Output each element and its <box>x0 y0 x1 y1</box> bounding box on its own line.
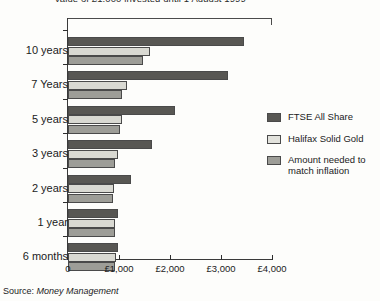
x-axis-tick <box>272 255 273 260</box>
plot-area <box>68 18 272 260</box>
source-prefix: Source: <box>3 286 34 296</box>
bar-group <box>68 37 272 65</box>
legend-item[interactable]: Halifax Solid Gold <box>267 134 380 145</box>
category-label: 2 years <box>0 182 68 194</box>
bar-2 <box>68 228 115 237</box>
bar-group <box>68 175 272 203</box>
category-label: 10 years <box>0 44 68 56</box>
y-axis-tick <box>63 236 68 237</box>
legend-label: FTSE All Share <box>288 112 353 123</box>
source-name: Money Management <box>37 286 119 296</box>
bar-0 <box>68 140 152 149</box>
legend-item[interactable]: FTSE All Share <box>267 112 380 123</box>
bar-1 <box>68 253 116 262</box>
category-label: 3 years <box>0 147 68 159</box>
y-axis-tick <box>63 30 68 31</box>
bar-1 <box>68 81 127 90</box>
legend-swatch-icon <box>267 135 281 144</box>
bar-0 <box>68 37 244 46</box>
category-label: 5 years <box>0 113 68 125</box>
legend-label: Halifax Solid Gold <box>288 134 364 145</box>
bar-0 <box>68 243 118 252</box>
chart-title: Value of £1,000 invested until 1 August … <box>0 0 300 2</box>
chart-legend: FTSE All ShareHalifax Solid GoldAmount n… <box>267 112 380 187</box>
bar-chart-figure: Value of £1,000 invested until 1 August … <box>0 0 380 301</box>
x-axis-tick <box>170 255 171 260</box>
category-label: 7 Years <box>0 78 68 90</box>
bar-1 <box>68 115 122 124</box>
x-axis-tick <box>221 255 222 260</box>
x-axis-label: £2,000 <box>155 263 184 274</box>
bar-2 <box>68 125 120 134</box>
bar-group <box>68 140 272 168</box>
y-axis-tick <box>63 202 68 203</box>
x-axis-tick <box>119 255 120 260</box>
bar-0 <box>68 106 175 115</box>
bar-1 <box>68 150 118 159</box>
bar-group <box>68 71 272 99</box>
bar-2 <box>68 90 122 99</box>
legend-item[interactable]: Amount needed to match inflation <box>267 155 380 176</box>
category-label: 6 months <box>0 250 68 262</box>
bar-group <box>68 209 272 237</box>
category-label: 1 year <box>0 216 68 228</box>
y-axis-tick <box>63 133 68 134</box>
x-axis-label: 0 <box>65 263 70 274</box>
bar-group <box>68 106 272 134</box>
bar-0 <box>68 71 228 80</box>
bar-1 <box>68 219 115 228</box>
source-note: Source: Money Management <box>3 286 119 296</box>
y-axis-tick <box>63 168 68 169</box>
x-axis-label: £3,000 <box>206 263 235 274</box>
bar-1 <box>68 47 150 56</box>
x-axis-label: £4,000 <box>257 263 286 274</box>
legend-swatch-icon <box>267 113 281 122</box>
bar-0 <box>68 209 118 218</box>
bar-1 <box>68 184 114 193</box>
legend-label: Amount needed to match inflation <box>288 155 380 176</box>
bar-2 <box>68 159 115 168</box>
bar-0 <box>68 175 131 184</box>
legend-swatch-icon <box>267 156 281 165</box>
y-axis-tick <box>63 64 68 65</box>
bar-2 <box>68 194 113 203</box>
y-axis-tick <box>63 99 68 100</box>
bar-2 <box>68 56 143 65</box>
x-axis-label: £1,000 <box>104 263 133 274</box>
